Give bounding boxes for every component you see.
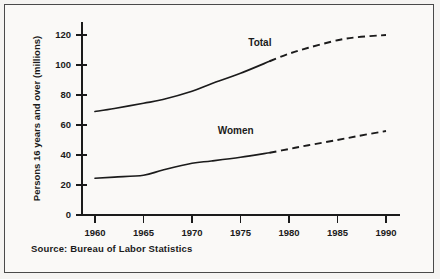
x-tick-label: 1975 [230,227,252,238]
x-tick-label: 1960 [84,227,105,238]
axis-lines [82,22,400,215]
x-axis-tick-labels: 1960196519701975198019851990 [84,227,396,238]
y-tick-label: 100 [55,59,71,70]
y-tick-label: 80 [60,89,71,100]
y-tick-label: 20 [60,179,71,190]
figure-container: 020406080100120 196019651970197519801985… [0,0,440,279]
y-tick-label: 120 [55,29,71,40]
series-line-total-actual [95,61,270,111]
y-tick-label: 0 [66,209,71,220]
series-line-total-projected [270,35,386,61]
series-line-women-actual [95,153,270,179]
x-tick-label: 1990 [375,227,396,238]
x-tick-label: 1985 [327,227,349,238]
series-inline-labels: TotalWomen [218,37,272,137]
source-note: Source: Bureau of Labor Statistics [31,243,192,254]
y-axis-title: Persons 16 years and over (millions) [31,36,42,201]
series-label-total: Total [248,37,271,48]
series-line-women-projected [270,131,386,153]
x-tick-label: 1980 [278,227,299,238]
y-tick-label: 60 [60,119,71,130]
x-tick-label: 1965 [133,227,155,238]
series-label-women: Women [218,125,254,136]
x-tick-label: 1970 [181,227,202,238]
y-axis-tick-labels: 020406080100120 [55,29,71,220]
line-chart: 020406080100120 196019651970197519801985… [0,0,440,279]
y-tick-label: 40 [60,149,71,160]
chart-series [95,35,386,178]
